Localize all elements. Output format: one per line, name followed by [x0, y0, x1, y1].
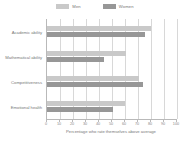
x-tick-label: 20	[70, 122, 74, 127]
x-tick-label: 100	[173, 122, 179, 127]
category-label: Academic ability	[12, 29, 42, 34]
x-tick-label: 60	[122, 122, 126, 127]
x-tick-label: 0	[45, 122, 47, 127]
bar	[47, 57, 104, 62]
category-label: Competitiveness	[11, 79, 42, 84]
legend-swatch-women	[103, 4, 116, 9]
bar-row	[47, 57, 104, 62]
bar-row	[47, 32, 145, 37]
bar	[47, 101, 125, 106]
x-tick-label: 90	[161, 122, 165, 127]
bar	[47, 107, 113, 112]
legend-swatch-men	[56, 4, 69, 9]
legend-label-women: Women	[119, 4, 134, 9]
x-tick-label: 80	[148, 122, 152, 127]
x-tick-label: 40	[96, 122, 100, 127]
legend-item-women: Women	[103, 4, 134, 9]
bar	[47, 32, 145, 37]
gridline	[177, 19, 178, 119]
bar-chart: Men Women Academic abilityMathematical a…	[0, 0, 190, 144]
bar-series-group	[47, 19, 176, 119]
plot-area	[46, 19, 176, 119]
x-tick-label: 50	[109, 122, 113, 127]
x-tick-label: 70	[135, 122, 139, 127]
x-axis-tick-labels: 0102030405060708090100	[46, 122, 176, 128]
bar-row	[47, 82, 143, 87]
bar-row	[47, 51, 126, 56]
legend-label-men: Men	[72, 4, 80, 9]
category-label: Mathematical ability	[5, 54, 42, 59]
bar	[47, 51, 126, 56]
x-axis-title: Percentage who rate themselves above ave…	[46, 129, 176, 134]
bar	[47, 76, 139, 81]
bar-row	[47, 107, 113, 112]
category-label: Emotional health	[11, 104, 42, 109]
bar	[47, 82, 143, 87]
category-axis-labels: Academic abilityMathematical abilityComp…	[0, 19, 45, 119]
chart-legend: Men Women	[0, 1, 190, 11]
bar-row	[47, 26, 151, 31]
x-tick-label: 30	[83, 122, 87, 127]
bar-row	[47, 76, 139, 81]
bar	[47, 26, 151, 31]
x-tick-label: 10	[57, 122, 61, 127]
legend-item-men: Men	[56, 4, 80, 9]
bar-row	[47, 101, 125, 106]
